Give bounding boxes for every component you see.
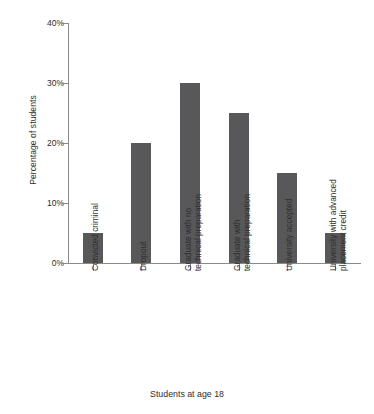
x-category-label-5: University accepted (284, 199, 294, 271)
x-category-label-1: Convicted criminal (90, 203, 100, 271)
x-category-label-6-line2: placement credit (338, 179, 348, 271)
x-category-label-4-line2: technical preparation (242, 194, 252, 271)
x-category-label-6-line1: University with advanced (328, 179, 338, 271)
y-tick-label-0: 0% (30, 259, 64, 268)
bar-chart: Percentage of students 40% 30% 20% 10% 0… (0, 0, 374, 414)
x-axis-line (68, 263, 361, 264)
y-tick-mark-0 (62, 263, 68, 264)
y-tick-label-40: 40% (30, 19, 64, 28)
x-axis-title: Students at age 18 (0, 389, 374, 399)
x-category-label-3-line1: Graduate with no (183, 208, 193, 271)
x-category-label-6: University with advanced placement credi… (328, 179, 348, 271)
y-tick-label-20: 20% (30, 139, 64, 148)
x-category-label-5-line1: University accepted (284, 199, 294, 271)
x-category-label-3: Graduate with no technical preparation (183, 194, 203, 271)
x-category-label-3-line2: technical preparation (193, 194, 203, 271)
x-category-label-2: Dropout (138, 241, 148, 271)
x-category-label-1-line1: Convicted criminal (90, 203, 100, 271)
x-category-label-4-line1: Graduate with (232, 219, 242, 271)
y-tick-label-10: 10% (30, 199, 64, 208)
plot-area (68, 23, 361, 263)
y-axis-tick-labels: 40% 30% 20% 10% 0% (28, 0, 64, 414)
x-category-label-4: Graduate with technical preparation (232, 194, 252, 271)
x-category-label-2-line1: Dropout (138, 241, 148, 271)
y-tick-label-30: 30% (30, 79, 64, 88)
